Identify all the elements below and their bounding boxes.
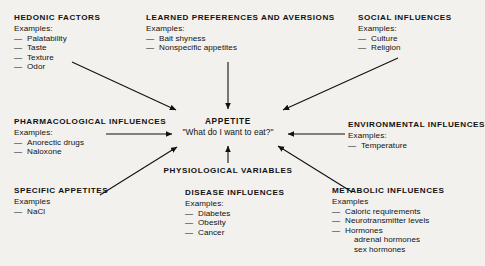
list-item: —Culture (358, 34, 452, 44)
list-item-label: Hormones (345, 226, 383, 235)
list-item: —Texture (14, 53, 100, 63)
block-title: SPECIFIC APPETITES (14, 186, 108, 196)
block-title: ENVIRONMENTAL INFLUENCES (348, 120, 485, 130)
list-item-label: Bait shyness (159, 34, 206, 43)
block-title: METABOLIC INFLUENCES (332, 186, 444, 196)
list-item-label: NaCl (27, 207, 45, 216)
dash-glyph: — (185, 209, 193, 219)
list-item-label: Taste (27, 43, 47, 52)
list-item-label: Odor (27, 62, 45, 71)
item-list: —Bait shyness —Nonspecific appetites (146, 34, 335, 53)
list-item: —Neurotransmitter levels (332, 216, 444, 226)
dash-glyph: — (14, 53, 22, 63)
list-item-label: Caloric requirements (345, 207, 421, 216)
dash-glyph: — (14, 62, 22, 72)
dash-glyph: — (146, 34, 154, 44)
list-item: —NaCl (14, 207, 108, 217)
dash-glyph: — (146, 43, 154, 53)
center-node-question: "What do I want to eat?" (168, 127, 288, 137)
block-title: SOCIAL INFLUENCES (358, 13, 452, 23)
block-hedonic-factors: HEDONIC FACTORS Examples: —Palatability … (14, 13, 100, 72)
list-item-label: Nonspecific appetites (159, 43, 237, 52)
list-subitem: sex hormones (332, 245, 444, 255)
item-list: —Culture —Religion (358, 34, 452, 53)
list-item: —Religion (358, 43, 452, 53)
arrow-social-to-appetite (283, 58, 398, 110)
block-pharmacological-influences: PHARMACOLOGICAL INFLUENCES Examples: —An… (14, 117, 166, 157)
dash-glyph: — (185, 228, 193, 238)
list-item-label: Cancer (198, 228, 224, 237)
list-item-label: Anorectic drugs (27, 138, 84, 147)
list-item-label: Neurotransmitter levels (345, 216, 429, 225)
list-item-label: Obesity (198, 218, 226, 227)
list-item: —Temperature (348, 141, 485, 151)
block-social-influences: SOCIAL INFLUENCES Examples: —Culture —Re… (358, 13, 452, 53)
list-item-label: Diabetes (198, 209, 230, 218)
list-item-label: Naloxone (27, 147, 62, 156)
item-list: —Diabetes —Obesity —Cancer (185, 209, 284, 238)
examples-label: Examples: (14, 24, 100, 34)
list-item: —Obesity (185, 218, 284, 228)
block-title: HEDONIC FACTORS (14, 13, 100, 23)
examples-label: Examples: (358, 24, 452, 34)
dash-glyph: — (14, 138, 22, 148)
list-subitem: adrenal hormones (332, 235, 444, 245)
list-item-label: Texture (27, 53, 54, 62)
list-item: —Naloxone (14, 147, 166, 157)
block-title: PHARMACOLOGICAL INFLUENCES (14, 117, 166, 127)
examples-label: Examples: (146, 24, 335, 34)
list-item: —Odor (14, 62, 100, 72)
list-item-label: Palatability (27, 34, 67, 43)
block-specific-appetites: SPECIFIC APPETITES Examples —NaCl (14, 186, 108, 216)
list-item: —Bait shyness (146, 34, 335, 44)
item-list: —NaCl (14, 207, 108, 217)
list-item-label: Temperature (361, 141, 407, 150)
list-item: —Palatability (14, 34, 100, 44)
examples-label: Examples: (348, 131, 485, 141)
item-list: —Anorectic drugs —Naloxone (14, 138, 166, 157)
dash-glyph: — (348, 141, 356, 151)
dash-glyph: — (14, 43, 22, 53)
list-item-label: Culture (371, 34, 397, 43)
item-list: —Temperature (348, 141, 485, 151)
dash-glyph: — (14, 207, 22, 217)
examples-label: Examples: (14, 128, 166, 138)
list-item: —Taste (14, 43, 100, 53)
list-item: —Caloric requirements (332, 207, 444, 217)
item-list: —Caloric requirements —Neurotransmitter … (332, 207, 444, 255)
center-node-appetite: APPETITE "What do I want to eat?" (168, 116, 288, 137)
examples-label: Examples (332, 197, 444, 207)
dash-glyph: — (332, 216, 340, 226)
list-item: —Nonspecific appetites (146, 43, 335, 53)
dash-glyph: — (14, 34, 22, 44)
examples-label: Examples (14, 197, 108, 207)
dash-glyph: — (358, 43, 366, 53)
dash-glyph: — (332, 226, 340, 236)
list-item: —Anorectic drugs (14, 138, 166, 148)
block-metabolic-influences: METABOLIC INFLUENCES Examples —Caloric r… (332, 186, 444, 254)
block-learned-preferences: LEARNED PREFERENCES AND AVERSIONS Exampl… (146, 13, 335, 53)
list-item: —Cancer (185, 228, 284, 238)
center-node-title: APPETITE (168, 116, 288, 126)
list-item: —Diabetes (185, 209, 284, 219)
block-physiological-variables: PHYSIOLOGICAL VARIABLES (161, 166, 295, 175)
block-disease-influences: DISEASE INFLUENCES Examples: —Diabetes —… (185, 188, 284, 237)
dash-glyph: — (14, 147, 22, 157)
item-list: —Palatability —Taste —Texture —Odor (14, 34, 100, 72)
dash-glyph: — (332, 207, 340, 217)
list-item: —Hormones (332, 226, 444, 236)
list-item-label: Religion (371, 43, 401, 52)
block-environmental-influences: ENVIRONMENTAL INFLUENCES Examples: —Temp… (348, 120, 485, 150)
block-title: LEARNED PREFERENCES AND AVERSIONS (146, 13, 335, 23)
dash-glyph: — (358, 34, 366, 44)
examples-label: Examples: (185, 199, 284, 209)
dash-glyph: — (185, 218, 193, 228)
block-title: DISEASE INFLUENCES (185, 188, 284, 198)
